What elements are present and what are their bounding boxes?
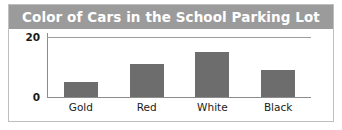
bar-slot-red	[114, 33, 180, 97]
bar-white[interactable]	[195, 52, 229, 97]
x-label-gold: Gold	[48, 101, 114, 113]
chart-panel: Color of Cars in the School Parking Lot …	[8, 4, 334, 122]
chart-title-banner: Color of Cars in the School Parking Lot	[9, 5, 333, 29]
plot-frame: 20 0	[47, 33, 311, 98]
x-label-white: White	[180, 101, 246, 113]
bar-red[interactable]	[130, 64, 164, 97]
chart-figure: Color of Cars in the School Parking Lot …	[0, 0, 342, 130]
bar-slot-gold	[48, 33, 114, 97]
y-tick-label-20: 20	[25, 31, 40, 43]
axis-baseline-0	[47, 97, 311, 98]
x-axis-labels: Gold Red White Black	[48, 101, 311, 117]
chart-plot-area: 20 0 Gold	[9, 29, 333, 121]
chart-title: Color of Cars in the School Parking Lot	[9, 5, 333, 29]
x-label-red: Red	[114, 101, 180, 113]
bar-slot-black	[245, 33, 311, 97]
bar-black[interactable]	[261, 70, 295, 97]
y-tick-label-0: 0	[33, 91, 40, 103]
bar-series	[48, 33, 311, 97]
x-label-black: Black	[245, 101, 311, 113]
bar-slot-white	[180, 33, 246, 97]
bar-gold[interactable]	[64, 82, 98, 97]
